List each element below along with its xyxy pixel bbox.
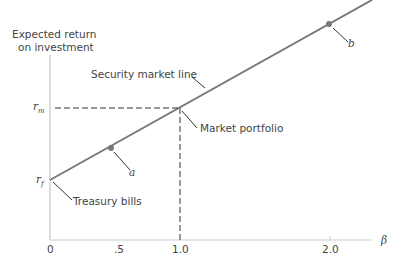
a-label: a	[129, 166, 135, 178]
market-label: Market portfolio	[200, 122, 283, 134]
arrow-tbills	[53, 182, 72, 200]
arrow-market	[182, 111, 197, 128]
arrow-b	[333, 28, 348, 42]
x-tick-0: 0	[47, 243, 54, 255]
rf-label: rf	[36, 173, 44, 188]
sml-label: Security market line	[91, 68, 197, 80]
tbills-label: Treasury bills	[73, 195, 142, 207]
b-label: b	[348, 37, 355, 49]
x-tick-1: 1.0	[172, 243, 189, 255]
y-label-1: Expected return	[12, 28, 96, 40]
point-a	[108, 145, 114, 151]
y-label-2: on investment	[18, 41, 94, 53]
arrow-a	[114, 152, 130, 170]
point-b	[326, 21, 332, 27]
x-tick-2: 2.0	[322, 243, 339, 255]
rm-label: rm	[33, 100, 45, 115]
security-market-line	[50, 0, 372, 180]
x-tick-05: .5	[114, 243, 124, 255]
beta-label: β	[381, 234, 387, 246]
sml-chart: Expected return on investment Security m…	[0, 0, 403, 269]
